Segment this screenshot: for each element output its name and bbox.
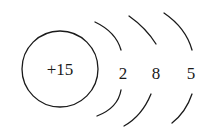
shell-2-lower-arc: [124, 94, 151, 126]
shell-1-upper-arc: [95, 22, 121, 50]
shell-2-electron-count: 8: [152, 64, 161, 83]
shell-1-electron-count: 2: [119, 64, 128, 83]
shell-2-upper-arc: [129, 16, 156, 44]
shell-1-lower-arc: [97, 90, 121, 116]
shell-3-upper-arc: [164, 13, 192, 50]
shell-3-lower-arc: [172, 94, 192, 123]
nucleus-charge-label: +15: [47, 60, 74, 79]
shell-3-electron-count: 5: [187, 64, 196, 83]
atom-diagram: +15 2 8 5: [0, 0, 213, 134]
